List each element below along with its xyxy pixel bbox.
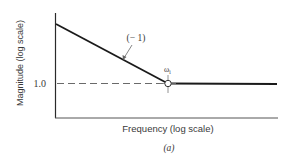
x-axis-label: Frequency (log scale): [122, 123, 213, 134]
arrowhead-icon: [123, 55, 127, 60]
slope-arrow: [124, 45, 132, 58]
slope-annotation: (− 1): [127, 33, 146, 44]
slope-segment: [56, 24, 166, 83]
omega-subscript: i: [169, 69, 171, 75]
y-axis-label: Magnitude (log scale): [15, 20, 25, 106]
figure-caption: (a): [163, 143, 174, 154]
break-frequency-label: ωi: [164, 65, 171, 75]
bode-plot: Magnitude (log scale) 1.0 (− 1) ωi Frequ…: [0, 0, 287, 161]
breakpoint-marker: [165, 80, 171, 86]
y-tick-label: 1.0: [34, 78, 47, 89]
flat-segment: [170, 84, 277, 85]
